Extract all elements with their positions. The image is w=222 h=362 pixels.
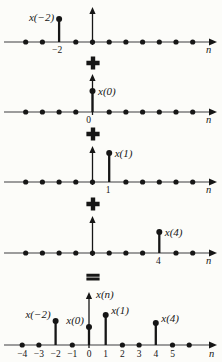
impulse-label: x(0)	[65, 314, 84, 327]
impulse-dot	[103, 312, 109, 318]
sample-dot	[157, 109, 162, 114]
amplitude-axis-arrow-icon	[89, 74, 95, 81]
tick-label: 0	[86, 115, 91, 125]
impulse-label: x(−2)	[24, 308, 50, 321]
impulse-label: x(−2)	[28, 11, 54, 24]
tick-label: 1	[103, 349, 108, 359]
sample-dot	[73, 179, 78, 184]
sample-dot	[190, 39, 195, 44]
sample-dot	[107, 109, 112, 114]
impulse-dot	[86, 324, 92, 330]
impulse-label: x(1)	[110, 304, 129, 317]
amplitude-axis-arrow-icon	[86, 292, 92, 299]
amplitude-axis-arrow-icon	[89, 7, 95, 14]
tick-label: 3	[137, 349, 142, 359]
impulse-dot	[153, 320, 159, 326]
n-axis-label: n	[206, 184, 211, 195]
sample-dot	[73, 250, 78, 255]
tick-label: 0	[87, 349, 92, 359]
impulse-dot	[56, 16, 62, 22]
amplitude-axis-label: x(n)	[95, 288, 114, 301]
sample-dot	[173, 250, 178, 255]
impulse-label: x(4)	[160, 312, 179, 325]
plus-operator-icon	[86, 127, 99, 140]
n-axis-label: n	[206, 255, 211, 266]
impulse-label: x(4)	[164, 226, 183, 239]
sample-dot	[123, 179, 128, 184]
tick-label: 1	[106, 185, 111, 195]
tick-label: 4	[156, 256, 161, 266]
sample-dot	[90, 250, 95, 255]
signal-decomposition-figure: x(−2)−2nx(0)0nx(1)1nx(4)4nx(−2)x(0)x(1)x…	[0, 0, 222, 362]
tick-label: −2	[52, 45, 62, 55]
sample-dot	[140, 179, 145, 184]
sample-dot	[190, 109, 195, 114]
sample-dot	[173, 39, 178, 44]
sample-dot	[140, 39, 145, 44]
sample-dot	[137, 342, 142, 347]
sample-dot	[23, 179, 28, 184]
impulse-label: x(1)	[114, 147, 133, 160]
sample-dot	[107, 250, 112, 255]
sample-dot	[57, 109, 62, 114]
sample-dot	[90, 179, 95, 184]
amplitude-axis-arrow-icon	[89, 216, 95, 223]
sample-dot	[23, 109, 28, 114]
sample-dot	[173, 109, 178, 114]
sample-dot	[73, 109, 78, 114]
sample-dot	[70, 342, 75, 347]
sample-dot	[157, 39, 162, 44]
amplitude-axis-arrow-icon	[89, 146, 95, 153]
sample-dot	[123, 109, 128, 114]
tick-label: −1	[67, 349, 77, 359]
impulse-dot	[156, 229, 162, 235]
sample-dot	[57, 250, 62, 255]
tick-label: 4	[153, 349, 158, 359]
equals-operator-icon	[86, 274, 99, 281]
sample-dot	[190, 179, 195, 184]
n-axis-label: n	[206, 114, 211, 125]
sample-dot	[23, 39, 28, 44]
sample-dot	[190, 250, 195, 255]
impulse-dot	[90, 88, 96, 94]
sample-dot	[123, 39, 128, 44]
impulse-dot	[53, 318, 59, 324]
sample-dot	[20, 342, 25, 347]
plus-operator-icon	[86, 197, 99, 210]
impulse-label: x(0)	[97, 85, 116, 98]
tick-label: 5	[170, 349, 175, 359]
sample-dot	[107, 39, 112, 44]
impulse-dot	[106, 150, 112, 156]
sample-dot	[120, 342, 125, 347]
sample-dot	[140, 250, 145, 255]
sample-dot	[57, 179, 62, 184]
plus-operator-icon	[86, 56, 99, 69]
sample-dot	[40, 250, 45, 255]
sample-dot	[187, 342, 192, 347]
n-axis-label: n	[206, 44, 211, 55]
sample-dot	[173, 179, 178, 184]
sample-dot	[23, 250, 28, 255]
sample-dot	[40, 109, 45, 114]
sample-dot	[140, 109, 145, 114]
sample-dot	[40, 39, 45, 44]
sample-dot	[170, 342, 175, 347]
n-axis-label: n	[209, 348, 214, 359]
figure-canvas: x(−2)−2nx(0)0nx(1)1nx(4)4nx(−2)x(0)x(1)x…	[0, 0, 222, 362]
tick-label: −2	[51, 349, 61, 359]
sample-dot	[157, 179, 162, 184]
sample-dot	[90, 39, 95, 44]
sample-dot	[73, 39, 78, 44]
sample-dot	[123, 250, 128, 255]
tick-label: −4	[17, 349, 27, 359]
sample-dot	[36, 342, 41, 347]
sample-dot	[40, 179, 45, 184]
tick-label: 2	[120, 349, 125, 359]
tick-label: −3	[34, 349, 44, 359]
